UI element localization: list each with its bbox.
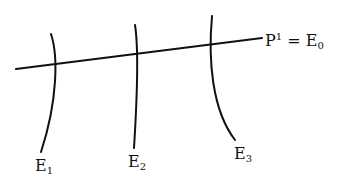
label-e1: E1 xyxy=(35,158,53,174)
label-equals: = xyxy=(282,31,306,50)
curve-e3 xyxy=(211,16,235,140)
label-e2-sub: 2 xyxy=(140,161,146,172)
label-e3-sub: 3 xyxy=(246,153,252,164)
label-e0-sub: 0 xyxy=(317,40,323,51)
label-e3: E3 xyxy=(234,146,252,162)
label-e1-sub: 1 xyxy=(47,165,53,176)
label-e1-base: E xyxy=(35,156,47,175)
curve-e2 xyxy=(134,25,137,148)
label-e2: E2 xyxy=(128,154,146,170)
label-p-sup: 1 xyxy=(276,31,282,42)
label-e0-base: E xyxy=(306,31,318,50)
label-p: P xyxy=(265,31,276,50)
label-e2-base: E xyxy=(128,152,140,171)
label-p1-equals-e0: P1 = E0 xyxy=(265,33,324,49)
curve-e1 xyxy=(41,34,55,152)
label-e3-base: E xyxy=(234,144,246,163)
